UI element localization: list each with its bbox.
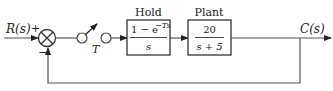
sampler-switch: T: [77, 24, 111, 56]
switch-arm-icon: [86, 24, 98, 35]
input-label: R(s): [5, 22, 31, 36]
summing-junction: −: [38, 30, 56, 60]
hold-title: Hold: [135, 6, 162, 19]
feedback-line: [48, 38, 300, 83]
feedback-path: [48, 38, 300, 83]
input-signal: R(s) +: [4, 22, 40, 38]
output-label: C(s): [300, 22, 325, 36]
plant-numerator: 20: [203, 24, 216, 35]
minus-sign: −: [38, 45, 48, 59]
output-signal: C(s): [231, 22, 331, 38]
plant-block: Plant 20 s + 5: [188, 6, 231, 55]
hold-exponent: −Ts: [155, 21, 171, 30]
hold-block: Hold 1 − e −Ts s: [127, 6, 171, 55]
plant-title: Plant: [195, 6, 225, 19]
plus-sign: +: [31, 22, 40, 35]
hold-denominator: s: [146, 41, 151, 52]
sampling-period-label: T: [92, 43, 101, 56]
switch-right-terminal: [101, 33, 111, 43]
plant-denominator: s + 5: [196, 41, 222, 52]
block-diagram: R(s) + − T Hold 1 − e −Ts s Plant 20 s +…: [0, 0, 333, 91]
